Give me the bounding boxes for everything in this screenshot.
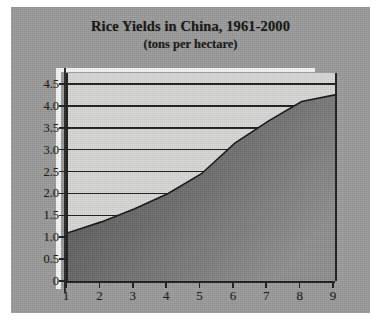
x-tick-5 [199, 281, 201, 288]
series-rice-yield-area [68, 73, 335, 281]
x-tick-label-9: 9 [322, 288, 344, 304]
y-tick-label-4.0: 4.0 [19, 100, 59, 112]
y-tick-3.0 [59, 149, 66, 151]
x-tick-label-2: 2 [88, 288, 110, 304]
x-tick-7 [265, 281, 267, 288]
y-tick-0.5 [59, 258, 66, 260]
x-tick-9 [332, 281, 334, 288]
y-tick-1.0 [59, 236, 66, 238]
y-tick-label-2.0: 2.0 [19, 187, 59, 199]
y-tick-label-2.5: 2.5 [19, 166, 59, 178]
area-fill [68, 95, 335, 281]
y-tick-label-0: 0 [19, 275, 59, 287]
chart-subtitle: (tons per hectare) [11, 36, 370, 52]
x-tick-label-5: 5 [189, 288, 211, 304]
title-block: Rice Yields in China, 1961-2000 (tons pe… [11, 18, 370, 52]
y-tick-4.0 [59, 105, 66, 107]
x-tick-4 [165, 281, 167, 288]
x-tick-label-8: 8 [289, 288, 311, 304]
x-tick-label-6: 6 [222, 288, 244, 304]
plot-surface [68, 73, 335, 281]
x-tick-label-1: 1 [55, 288, 77, 304]
y-tick-2.0 [59, 193, 66, 195]
y-tick-4.5 [59, 83, 66, 85]
x-tick-1 [65, 281, 67, 288]
plot-top-white-margin [56, 68, 315, 72]
y-tick-label-3.0: 3.0 [19, 144, 59, 156]
y-tick-label-1.0: 1.0 [19, 231, 59, 243]
x-tick-label-3: 3 [122, 288, 144, 304]
y-tick-label-1.5: 1.5 [19, 209, 59, 221]
y-tick-3.5 [59, 127, 66, 129]
x-tick-label-4: 4 [155, 288, 177, 304]
figure-panel: Rice Yields in China, 1961-2000 (tons pe… [11, 7, 370, 313]
plot-area [66, 73, 337, 281]
y-tick-1.5 [59, 215, 66, 217]
x-tick-3 [132, 281, 134, 288]
x-tick-2 [99, 281, 101, 288]
x-tick-label-7: 7 [255, 288, 277, 304]
y-tick-label-4.5: 4.5 [19, 78, 59, 90]
y-tick-label-0.5: 0.5 [19, 253, 59, 265]
chart-title: Rice Yields in China, 1961-2000 [11, 18, 370, 35]
y-tick-label-3.5: 3.5 [19, 122, 59, 134]
y-tick-2.5 [59, 171, 66, 173]
x-tick-8 [299, 281, 301, 288]
x-tick-6 [232, 281, 234, 288]
